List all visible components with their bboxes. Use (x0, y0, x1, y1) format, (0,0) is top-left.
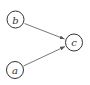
node-c-label: c (71, 37, 77, 48)
node-c: c (66, 34, 83, 51)
node-b-label: b (12, 15, 18, 26)
node-a-label: a (12, 65, 18, 76)
edge-b-to-c (25, 24, 65, 40)
node-b: b (7, 11, 24, 28)
graph-diagram: b c a (0, 0, 90, 85)
edge-a-to-c (24, 47, 66, 67)
node-a: a (7, 62, 24, 79)
